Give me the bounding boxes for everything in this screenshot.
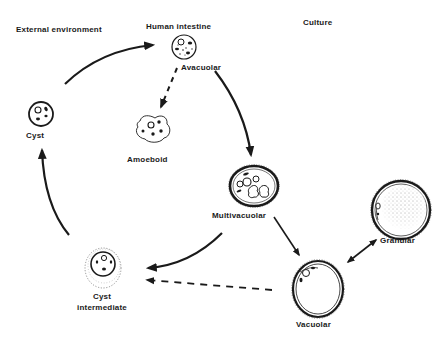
diagram-canvas	[0, 0, 448, 345]
region-label-human-intestine: Human intestine	[146, 22, 211, 31]
arrow-multivacuolar-to-vacuolar	[274, 217, 299, 255]
region-label-culture: Culture	[303, 18, 332, 27]
cyst-cell-icon	[29, 102, 53, 126]
region-label-external-environment: External environment	[16, 25, 102, 34]
arrow-vacuolar-granular	[348, 240, 376, 262]
stage-label-amoeboid: Amoeboid	[127, 155, 168, 164]
arrow-cyst-intermediate-to-cyst	[42, 150, 69, 235]
arrow-multivacuolar-to-cyst-intermediate	[148, 233, 222, 268]
avacuolar-cell-icon	[172, 35, 196, 59]
arrow-cyst-to-avacuolar	[65, 45, 153, 84]
stage-label-cyst-intermediate-line1: Cyst	[93, 292, 111, 301]
stage-label-cyst-intermediate-line2: intermediate	[77, 303, 127, 312]
vacuolar-cell-icon	[292, 260, 345, 319]
arrow-avacuolar-to-amoeboid	[161, 68, 177, 107]
stage-label-avacuolar: Avacuolar	[181, 63, 221, 72]
stage-label-multivacuolar: Multivacuolar	[212, 211, 266, 220]
life-cycle-diagram: External environment Human intestine Cul…	[0, 0, 448, 345]
arrow-avacuolar-to-multivacuolar	[215, 71, 251, 155]
granular-cell-icon	[371, 180, 432, 241]
stage-label-granular: Granular	[380, 236, 415, 245]
stage-label-cyst: Cyst	[26, 131, 44, 140]
cyst-intermediate-cell-icon	[85, 248, 121, 288]
stage-label-vacuolar: Vacuolar	[296, 320, 331, 329]
multivacuolar-cell-icon	[229, 165, 280, 208]
amoeboid-cell-icon	[136, 116, 169, 143]
arrow-vacuolar-to-cyst-intermediate	[147, 280, 272, 290]
